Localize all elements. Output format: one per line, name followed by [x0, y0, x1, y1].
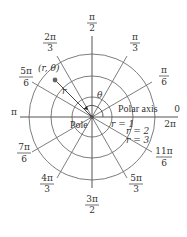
circle-label-r3: r = 3: [126, 135, 150, 145]
angle-label-pi-2: π 2: [87, 12, 97, 33]
svg-text:3π: 3π: [86, 194, 98, 204]
svg-text:3: 3: [47, 43, 53, 53]
svg-text:3: 3: [44, 184, 50, 194]
svg-text:3: 3: [133, 184, 139, 194]
angle-label-pi-6: π 6: [159, 65, 169, 87]
svg-text:π: π: [132, 32, 138, 42]
svg-text:2: 2: [89, 205, 95, 215]
angle-label-7pi-6: 7π 6: [17, 142, 31, 164]
svg-text:11π: 11π: [155, 146, 172, 156]
svg-text:5π: 5π: [20, 66, 32, 76]
point-label: (r, θ): [38, 63, 60, 73]
angle-label-pi: π: [11, 107, 17, 117]
angle-label-2pi-3: 2π 3: [43, 32, 57, 53]
svg-text:6: 6: [161, 158, 167, 168]
polar-grid-diagram: (r, θ) r θ Pole Polar axis r = 1 r = 2 r…: [0, 0, 187, 237]
svg-text:6: 6: [161, 77, 167, 87]
angle-label-2pi: 2π: [164, 119, 176, 129]
svg-text:6: 6: [21, 154, 27, 164]
svg-text:5π: 5π: [130, 173, 142, 183]
svg-text:6: 6: [23, 78, 29, 88]
angle-label-4pi-3: 4π 3: [40, 173, 54, 194]
pole-label: Pole: [70, 119, 88, 130]
angle-label-5pi-3: 5π 3: [129, 173, 143, 194]
svg-text:3: 3: [132, 43, 138, 53]
svg-text:π: π: [161, 65, 167, 75]
angle-label-pi-3: π 3: [130, 32, 140, 53]
angle-label-0: 0: [174, 104, 180, 114]
angle-label-5pi-6: 5π 6: [19, 66, 33, 88]
angle-label: θ: [97, 90, 103, 100]
svg-text:2π: 2π: [44, 32, 56, 42]
svg-text:2: 2: [89, 23, 95, 33]
angle-label-3pi-2: 3π 2: [85, 194, 99, 215]
point-r-theta: [53, 78, 58, 83]
polar-axis-label: Polar axis: [118, 103, 158, 114]
svg-text:7π: 7π: [18, 142, 30, 152]
angle-label-11pi-6: 11π 6: [155, 146, 172, 168]
radius-label: r: [62, 86, 67, 96]
svg-text:π: π: [89, 12, 95, 22]
svg-text:4π: 4π: [41, 173, 53, 183]
